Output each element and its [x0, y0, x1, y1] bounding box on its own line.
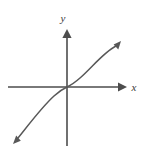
curve-arrowhead-upper-right-icon	[114, 41, 121, 50]
x-axis-label: x	[131, 81, 137, 93]
y-axis-arrowhead-icon	[62, 29, 71, 38]
coordinate-plane-svg: y x	[0, 0, 142, 153]
y-axis-label: y	[60, 12, 66, 24]
graph-figure: y x	[0, 0, 142, 153]
x-axis-arrowhead-icon	[118, 82, 127, 91]
